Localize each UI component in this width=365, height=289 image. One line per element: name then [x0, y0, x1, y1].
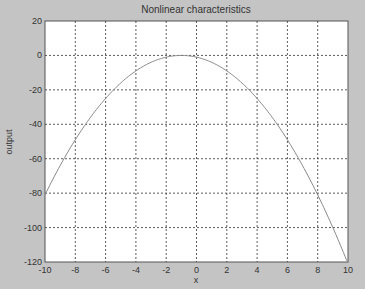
x-tick-label: 8 [315, 265, 320, 275]
x-tick-label: 6 [285, 265, 290, 275]
y-tick-label: 0 [37, 50, 42, 60]
figure-window: Nonlinear characteristics 200-20-40-60-8… [0, 0, 365, 289]
x-tick-label: -10 [38, 265, 51, 275]
y-tick-label: 20 [32, 16, 42, 26]
x-tick-label: 0 [194, 265, 199, 275]
x-tick-label: -4 [132, 265, 140, 275]
x-axis-label: x [194, 275, 199, 285]
x-tick-label: -2 [162, 265, 170, 275]
y-tick-label: -80 [29, 188, 42, 198]
y-axis-label: output [4, 129, 14, 155]
x-tick-label: 4 [255, 265, 260, 275]
y-tick-label: -20 [29, 85, 42, 95]
x-tick-label: -6 [102, 265, 110, 275]
x-tick-label: 2 [224, 265, 229, 275]
y-tick-label: -100 [24, 223, 42, 233]
x-tick-label: 10 [343, 265, 353, 275]
chart-canvas: Nonlinear characteristics 200-20-40-60-8… [0, 0, 365, 289]
y-axis-ticks: 200-20-40-60-80-100-120 [24, 16, 42, 267]
x-axis-ticks: -10-8-6-4-20246810 [38, 265, 353, 275]
y-tick-label: -40 [29, 119, 42, 129]
y-tick-label: -60 [29, 154, 42, 164]
x-tick-label: -8 [71, 265, 79, 275]
chart-title: Nonlinear characteristics [141, 4, 251, 15]
